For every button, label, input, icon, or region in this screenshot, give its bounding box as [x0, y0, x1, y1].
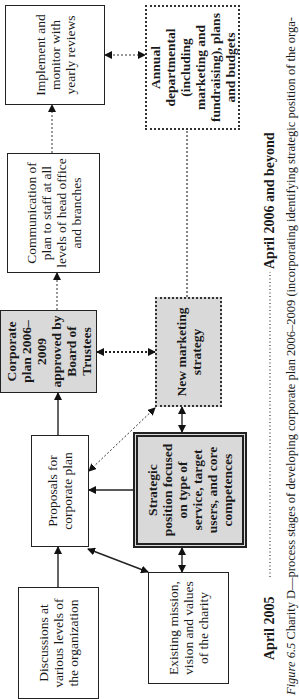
box-strategic-position-text: Strategic position focused on type of se…	[145, 441, 235, 539]
box-corporate-plan-text: Corporate plan 2006–2009 approved by Boa…	[4, 315, 94, 388]
timeline-end-label: April 2006 and beyond	[262, 132, 278, 269]
timeline-start-label: April 2005	[262, 597, 278, 660]
box-corporate-plan: Corporate plan 2006–2009 approved by Boa…	[0, 310, 97, 393]
box-discussions-text: Discussions at various levels of the org…	[36, 592, 81, 694]
box-new-marketing-text: New marketing strategy	[174, 303, 204, 401]
box-proposals: Proposals for corporate plan	[31, 435, 89, 547]
box-implement: Implement and monitor with yearly review…	[5, 5, 105, 105]
box-existing-mission: Existing mission, vision and values of t…	[148, 572, 229, 684]
box-new-marketing: New marketing strategy	[155, 297, 222, 407]
box-communication: Communication of plan to staff at all le…	[7, 153, 100, 273]
figure-caption-text: Charity D—process stages of developing c…	[284, 17, 298, 640]
box-strategic-position: Strategic position focused on type of se…	[133, 432, 247, 548]
box-proposals-text: Proposals for corporate plan	[45, 440, 75, 542]
figure-caption: Figure 6.5 Charity D—process stages of d…	[284, 17, 298, 695]
box-implement-text: Implement and monitor with yearly review…	[33, 10, 78, 100]
box-annual-departmental: Annual departmental (including marketing…	[145, 5, 240, 130]
box-communication-text: Communication of plan to staff at all le…	[24, 158, 84, 268]
box-existing-mission-text: Existing mission, vision and values of t…	[166, 577, 211, 679]
box-annual-departmental-text: Annual departmental (including marketing…	[148, 11, 238, 124]
figure-label: Figure 6.5	[284, 643, 298, 695]
box-discussions: Discussions at various levels of the org…	[18, 587, 99, 699]
